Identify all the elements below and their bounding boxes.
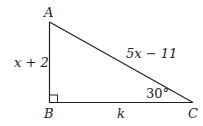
vertex-b-label: B — [43, 106, 54, 121]
side-bc-label: k — [117, 106, 125, 121]
side-ab-label: x + 2 — [14, 55, 49, 70]
vertex-a-label: A — [43, 5, 53, 20]
triangle-outline — [49, 22, 193, 103]
side-ac-label: 5x − 11 — [126, 46, 177, 61]
triangle-diagram: A B C x + 2 5x − 11 k 30° — [0, 0, 203, 126]
angle-c-label: 30° — [146, 86, 169, 101]
vertex-c-label: C — [188, 106, 198, 121]
right-angle-marker — [50, 95, 58, 103]
